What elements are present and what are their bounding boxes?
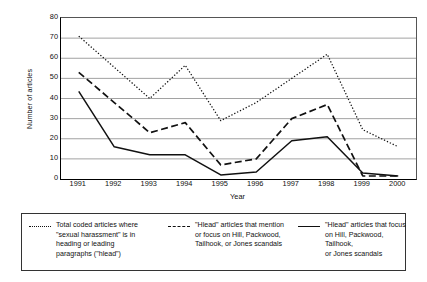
legend-item-label: "Hlead" articles that focus on Hill, Pac… [325, 221, 408, 259]
legend-item-0: Total coded articles where "sexual haras… [29, 221, 164, 259]
dotted-line-swatch [29, 222, 51, 231]
x-tick-1994: 1994 [176, 180, 192, 187]
y-tick-60: 60 [36, 54, 58, 61]
series-line-dotted [79, 36, 399, 147]
legend-item-1: "Hlead" articles that mention or focus o… [168, 221, 290, 250]
y-tick-40: 40 [36, 94, 58, 101]
plot-svg [61, 18, 416, 179]
x-tick-1999: 1999 [354, 180, 370, 187]
x-tick-1995: 1995 [212, 180, 228, 187]
y-tick-80: 80 [36, 13, 58, 20]
chart-area: Number of articles 01020304050607080 199… [0, 0, 427, 205]
legend-item-2: "Hlead" articles that focus on Hill, Pac… [298, 221, 408, 259]
series-lines [79, 36, 399, 176]
legend-item-label: "Hlead" articles that mention or focus o… [195, 221, 284, 250]
y-tick-50: 50 [36, 74, 58, 81]
x-tick-1993: 1993 [141, 180, 157, 187]
x-tick-1991: 1991 [70, 180, 86, 187]
y-tick-70: 70 [36, 33, 58, 40]
x-tick-2000: 2000 [389, 180, 405, 187]
x-tick-1996: 1996 [247, 180, 263, 187]
solid-line-swatch [298, 222, 320, 231]
y-axis-title: Number of articles [22, 44, 36, 154]
figure-line-chart: Number of articles 01020304050607080 199… [0, 0, 427, 282]
legend-items: Total coded articles where "sexual haras… [22, 214, 405, 270]
y-tick-20: 20 [36, 134, 58, 141]
legend-box: Total coded articles where "sexual haras… [21, 213, 406, 271]
x-tick-1998: 1998 [318, 180, 334, 187]
x-tick-1992: 1992 [105, 180, 121, 187]
y-tick-0: 0 [36, 174, 58, 181]
y-tick-10: 10 [36, 154, 58, 161]
gridlines [61, 18, 416, 159]
plot-frame [60, 17, 417, 180]
y-tick-30: 30 [36, 114, 58, 121]
y-axis-tick-labels: 01020304050607080 [36, 0, 58, 205]
dashed-line-swatch [168, 222, 190, 231]
series-line-solid [79, 91, 399, 176]
x-axis-title: Year [60, 192, 415, 201]
x-tick-1997: 1997 [283, 180, 299, 187]
legend-item-label: Total coded articles where "sexual haras… [56, 221, 138, 259]
